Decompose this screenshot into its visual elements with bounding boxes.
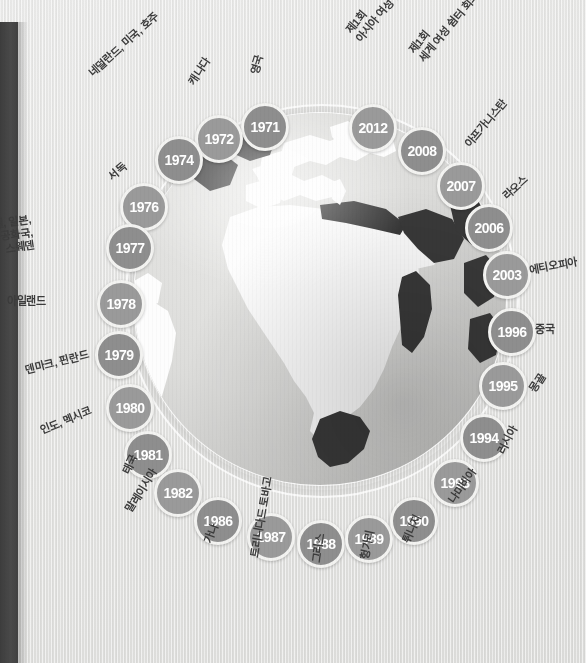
infographic-canvas: 1971영국1972캐나다1974네덜란드, 미국, 호주1976서독1977이… <box>0 0 586 663</box>
country-label-2008: 제1회 세계 여성 쉼터 회의 <box>406 0 482 65</box>
country-label-1971: 영국 <box>248 53 266 76</box>
left-dark-spine <box>0 22 18 663</box>
country-label-2003: 에티오피아 <box>528 255 579 276</box>
year-bubble-2008[interactable]: 2008 <box>398 127 446 175</box>
year-bubble-2006[interactable]: 2006 <box>465 204 513 252</box>
country-label-1979: 덴마크, 핀란드 <box>24 348 90 376</box>
country-label-1972: 캐나다 <box>186 56 213 88</box>
year-bubble-1995[interactable]: 1995 <box>479 362 527 410</box>
year-bubble-1974[interactable]: 1974 <box>155 136 203 184</box>
year-bubble-1996[interactable]: 1996 <box>488 308 536 356</box>
country-label-1974: 네덜란드, 미국, 호주 <box>86 10 161 80</box>
year-bubble-2007[interactable]: 2007 <box>437 162 485 210</box>
spine-shadow <box>18 22 28 663</box>
country-label-1995: 몽골 <box>527 371 548 395</box>
country-label-1980: 인도, 멕시코 <box>38 405 94 438</box>
country-label-1996: 중국 <box>535 323 555 336</box>
year-bubble-1977[interactable]: 1977 <box>106 224 154 272</box>
year-bubble-1980[interactable]: 1980 <box>106 384 154 432</box>
year-bubble-2012[interactable]: 2012 <box>349 104 397 152</box>
year-bubble-1986[interactable]: 1986 <box>194 497 242 545</box>
country-label-1976: 서독 <box>106 160 129 183</box>
year-bubble-1971[interactable]: 1971 <box>241 103 289 151</box>
year-bubble-2003[interactable]: 2003 <box>483 251 531 299</box>
year-bubble-1982[interactable]: 1982 <box>154 469 202 517</box>
year-bubble-1979[interactable]: 1979 <box>95 331 143 379</box>
year-bubble-1978[interactable]: 1978 <box>97 280 145 328</box>
country-label-1978: 아일랜드 <box>7 295 46 308</box>
